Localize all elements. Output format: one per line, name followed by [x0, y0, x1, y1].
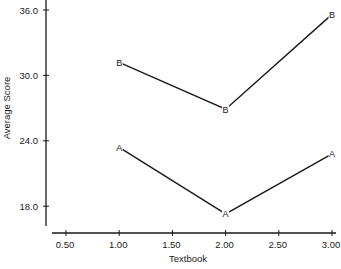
line-chart: 18.024.030.036.0 0.501.001.502.002.503.0… — [0, 0, 341, 269]
data-point-marker: B — [329, 10, 335, 20]
data-point-marker: A — [329, 149, 335, 159]
data-point-marker: A — [223, 209, 229, 219]
data-point-marker: A — [116, 143, 122, 153]
x-tick-label: 3.00 — [322, 239, 341, 250]
y-axis: 18.024.030.036.0 — [20, 0, 50, 226]
x-axis-label: Textbook — [169, 253, 207, 264]
x-tick-label: 1.50 — [162, 239, 181, 250]
y-tick-label: 24.0 — [20, 135, 39, 146]
series-line — [119, 14, 332, 109]
x-axis: 0.501.001.502.002.503.00 — [52, 230, 340, 250]
x-tick-label: 1.00 — [109, 239, 128, 250]
y-tick-label: 36.0 — [20, 5, 39, 16]
series-b: BBB — [116, 10, 336, 115]
y-tick-label: 30.0 — [20, 70, 39, 81]
data-point-marker: B — [223, 105, 229, 115]
series-layer: BBBAAA — [116, 10, 336, 219]
x-tick-label: 0.50 — [56, 239, 75, 250]
y-axis-label: Average Score — [1, 77, 12, 140]
x-tick-label: 2.00 — [215, 239, 234, 250]
series-line — [119, 147, 332, 213]
y-tick-label: 18.0 — [20, 201, 39, 212]
data-point-marker: B — [116, 58, 122, 68]
series-a: AAA — [116, 143, 336, 219]
x-tick-label: 2.50 — [269, 239, 288, 250]
